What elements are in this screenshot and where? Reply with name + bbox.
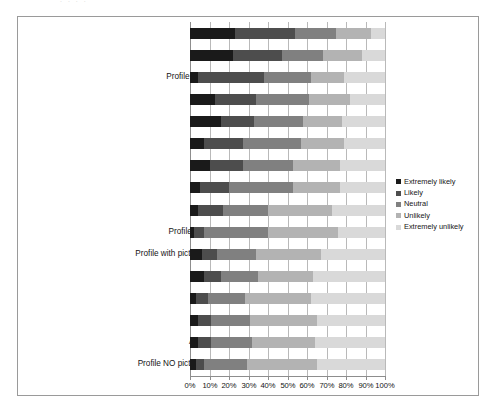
bar-segment (190, 182, 200, 193)
bar-segment (371, 28, 385, 39)
x-tick-label: 80% (338, 381, 353, 390)
chart-row: Blog with class content (0, 310, 495, 332)
bar-segment (313, 271, 385, 282)
cropped-header-text: . . . . (60, 0, 88, 3)
bar-segment (221, 116, 254, 127)
bar-segment (317, 315, 385, 326)
bar-segment (217, 249, 256, 260)
bar-segment (293, 160, 340, 171)
bar-segment (256, 249, 320, 260)
x-tick-90 (366, 376, 367, 380)
x-tick-label: 100% (375, 381, 394, 390)
x-tick-label: 30% (241, 381, 256, 390)
x-tick-40 (268, 376, 269, 380)
bar-segment (243, 160, 294, 171)
bar-segment (190, 72, 198, 83)
bar-segment (190, 28, 235, 39)
x-tick-100 (385, 376, 386, 380)
x-tick-label: 0% (185, 381, 196, 390)
bar-segment (340, 182, 385, 193)
chart-row: Write a blog (0, 288, 495, 310)
x-tick-30 (249, 376, 250, 380)
bar-segment (315, 337, 385, 348)
x-tick-50 (288, 376, 289, 380)
bar-segment (190, 249, 202, 260)
bar-segment (293, 182, 340, 193)
bar-segment (338, 227, 385, 238)
bar-segment (295, 28, 336, 39)
x-tick-label: 10% (202, 381, 217, 390)
x-tick-label: 60% (299, 381, 314, 390)
bar-segment (190, 205, 198, 216)
bar-segment (340, 160, 385, 171)
bar-segment (204, 359, 247, 370)
x-tick-label: 50% (280, 381, 295, 390)
bar-segment (233, 50, 282, 61)
bar-segment (215, 94, 256, 105)
stacked-bar (190, 205, 385, 216)
chart-row: Lessons in Youtube (0, 265, 495, 287)
bar-segment (221, 271, 258, 282)
stacked-bar (190, 315, 385, 326)
bar-segment (336, 28, 371, 39)
stacked-bar (190, 182, 385, 193)
x-tick-label: 20% (221, 381, 236, 390)
chart-row: Sign up social network (0, 133, 495, 155)
bar-segment (196, 359, 204, 370)
bar-segment (256, 94, 309, 105)
x-tick-label: 40% (260, 381, 275, 390)
bar-segment (311, 293, 385, 304)
bar-segment (303, 116, 342, 127)
chart-row: Facebook group (0, 155, 495, 177)
bar-segment (204, 227, 268, 238)
bar-segment (243, 138, 302, 149)
stacked-bar (190, 28, 385, 39)
bar-segment (190, 271, 204, 282)
bar-segment (323, 50, 362, 61)
bar-segment (311, 72, 344, 83)
bar-segment (198, 315, 212, 326)
x-tick-20 (229, 376, 230, 380)
bar-segment (198, 72, 264, 83)
bar-segment (198, 205, 223, 216)
bar-segment (211, 315, 250, 326)
stacked-bar (190, 116, 385, 127)
chart-row: Profile with picture in social network (0, 66, 495, 88)
bar-segment (301, 138, 344, 149)
bar-segment (264, 72, 311, 83)
stacked-bar (190, 94, 385, 105)
bar-segment (194, 227, 204, 238)
bar-segment (254, 116, 303, 127)
bar-segment (208, 293, 245, 304)
stacked-bar (190, 249, 385, 260)
bar-segment (342, 116, 385, 127)
x-tick-label: 90% (358, 381, 373, 390)
bar-segment (245, 293, 311, 304)
bar-segment (196, 293, 208, 304)
bar-segment (211, 337, 252, 348)
x-tick-80 (346, 376, 347, 380)
bar-segment (268, 205, 332, 216)
stacked-bar (190, 293, 385, 304)
x-tick-10 (210, 376, 211, 380)
bar-segment (223, 205, 268, 216)
stacked-bar (190, 359, 385, 370)
bar-segment (332, 205, 385, 216)
chart-row: LinkedIn Invitation (0, 88, 495, 110)
bar-segment (317, 359, 385, 370)
stacked-bar (190, 72, 385, 83)
chart-row: Facebook invitation (0, 22, 495, 44)
bar-segment (198, 337, 212, 348)
chart-row: IM meeting (0, 111, 495, 133)
stacked-bar (190, 138, 385, 149)
x-tick-label: 70% (319, 381, 334, 390)
bar-segment (190, 116, 221, 127)
stacked-bar-chart: . . . . 0%10%20%30%40%50%60%70%80%90%100… (0, 0, 495, 412)
bar-segment (309, 94, 350, 105)
bar-segment (268, 227, 338, 238)
chart-row: Profile NO picture in university virtual… (0, 354, 495, 376)
chart-row: Follow twitter account (0, 177, 495, 199)
bar-segment (190, 315, 198, 326)
bar-segment (190, 94, 215, 105)
bar-segment (362, 50, 385, 61)
